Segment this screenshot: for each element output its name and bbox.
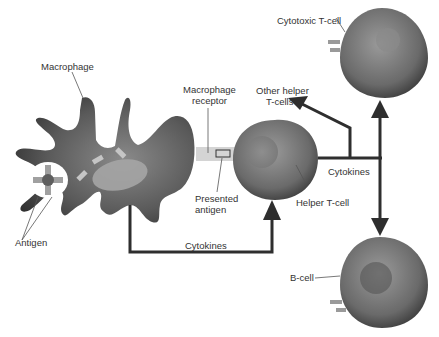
label-macrophage-receptor-line1: Macrophage — [183, 84, 236, 95]
immune-response-diagram: Macrophage Macrophage receptor Other hel… — [0, 0, 439, 337]
macrophage-cell — [16, 97, 195, 222]
label-cytokines-right: Cytokines — [328, 166, 370, 177]
label-presented-antigen-line1: Presented — [195, 193, 238, 204]
label-bcell: B-cell — [290, 272, 314, 283]
arrowhead-helper — [263, 200, 281, 220]
diagram-canvas — [0, 0, 439, 337]
presented-antigen-marker — [216, 150, 230, 157]
helper-tcell — [233, 120, 318, 200]
label-helper-tcell: Helper T-cell — [296, 197, 349, 208]
cytotoxic-tcell — [328, 8, 428, 98]
label-macrophage: Macrophage — [41, 61, 94, 72]
arrowhead-cytotoxic — [371, 100, 389, 118]
label-antigen: Antigen — [15, 237, 47, 248]
bcell — [330, 237, 428, 328]
label-other-helper-line2: T-cells — [266, 96, 293, 107]
arrowhead-bcell — [371, 218, 389, 236]
label-cytokines-bottom: Cytokines — [185, 240, 227, 251]
label-cytotoxic-tcell: Cytotoxic T-cell — [277, 15, 341, 26]
label-presented-antigen-line2: antigen — [195, 204, 226, 215]
label-macrophage-receptor-line2: receptor — [192, 95, 227, 106]
label-other-helper-line1: Other helper — [256, 85, 309, 96]
